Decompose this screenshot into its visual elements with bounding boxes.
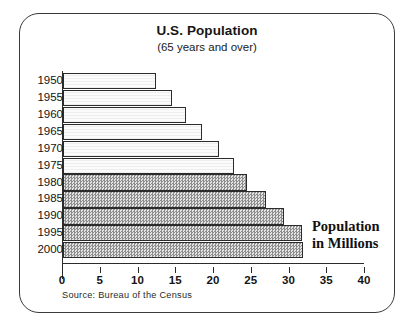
x-axis-tick (213, 267, 214, 273)
bar-row: 1970 (63, 141, 365, 157)
x-axis-tick-label: 25 (244, 275, 257, 287)
x-axis-tick-label: 40 (358, 275, 371, 287)
x-axis-tick-label: 20 (207, 275, 220, 287)
bar-row: 1980 (63, 174, 365, 190)
x-axis-label-line2: in Millions (312, 235, 380, 252)
bar (63, 141, 219, 157)
x-axis-tick (100, 267, 101, 273)
bar (63, 191, 266, 207)
bar (63, 208, 284, 224)
bar (63, 158, 234, 174)
y-axis-tick-label: 1975 (17, 160, 63, 172)
bar-row: 1960 (63, 107, 365, 123)
bar (63, 73, 156, 89)
bar (63, 90, 172, 106)
y-axis-tick-label: 1960 (17, 109, 63, 121)
source-note: Source: Bureau of the Census (62, 290, 192, 300)
bar (63, 242, 303, 258)
x-axis-tick (175, 267, 176, 273)
y-axis-tick-label: 2000 (17, 244, 63, 256)
y-axis-tick-label: 1955 (17, 92, 63, 104)
x-axis-tick-label: 10 (131, 275, 144, 287)
x-axis-tick-label: 30 (282, 275, 295, 287)
y-axis-tick-label: 1995 (17, 227, 63, 239)
x-axis-label: Population in Millions (312, 218, 380, 251)
y-axis-tick-label: 1970 (17, 143, 63, 155)
bar (63, 107, 186, 123)
plot-area: 1950195519601965197019751980198519901995… (20, 14, 396, 314)
x-axis-tick-label: 15 (169, 275, 182, 287)
x-axis-label-line1: Population (312, 218, 380, 235)
y-axis-tick-label: 1965 (17, 126, 63, 138)
bar-row: 1965 (63, 124, 365, 140)
bar-row: 1975 (63, 158, 365, 174)
chart-frame: U.S. Population (65 years and over) 1950… (19, 13, 395, 313)
x-axis-tick (326, 267, 327, 273)
y-axis-tick-label: 1950 (17, 75, 63, 87)
bar-row: 1985 (63, 191, 365, 207)
x-axis-tick (364, 267, 365, 273)
bar (63, 124, 202, 140)
x-axis-tick (251, 267, 252, 273)
x-axis-tick (289, 267, 290, 273)
x-axis-tick-label: 35 (320, 275, 333, 287)
bar-row: 1955 (63, 90, 365, 106)
bar-row: 1950 (63, 73, 365, 89)
x-axis-tick-label: 5 (97, 275, 103, 287)
x-axis-tick-label: 0 (59, 275, 65, 287)
bar (63, 174, 247, 190)
x-axis-tick (138, 267, 139, 273)
y-axis-tick-label: 1985 (17, 193, 63, 205)
y-axis-tick-label: 1980 (17, 177, 63, 189)
bar (63, 225, 302, 241)
y-axis-tick-label: 1990 (17, 210, 63, 222)
